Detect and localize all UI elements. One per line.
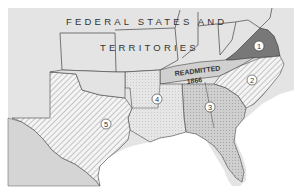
svg-text:5: 5 — [104, 120, 108, 129]
title-federal-states: FEDERAL STATES AND — [66, 16, 227, 27]
title-territories: TERRITORIES — [100, 42, 199, 53]
district-marker-5: 5 — [101, 119, 111, 129]
svg-text:1: 1 — [257, 42, 261, 51]
district-marker-4: 4 — [152, 94, 162, 104]
svg-text:2: 2 — [250, 76, 254, 85]
svg-text:4: 4 — [155, 95, 159, 104]
district-marker-3: 3 — [205, 102, 215, 112]
svg-text:3: 3 — [208, 103, 212, 112]
district-marker-1: 1 — [254, 41, 264, 51]
reconstruction-map: FEDERAL STATES AND TERRITORIES READMITTE… — [0, 0, 294, 192]
district-marker-2: 2 — [247, 75, 257, 85]
